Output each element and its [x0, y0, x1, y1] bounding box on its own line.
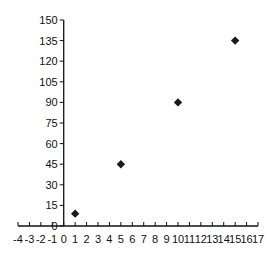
diamond-marker [117, 160, 125, 168]
x-tick-label: -3 [25, 233, 35, 245]
y-tick-label: 135 [39, 35, 57, 47]
x-tick-label: 12 [195, 233, 207, 245]
y-tick-label: 150 [39, 14, 57, 26]
y-tick-label: 30 [45, 179, 57, 191]
y-axis: 0153045607590105120135150 [39, 14, 63, 232]
x-tick-label: 10 [172, 233, 184, 245]
y-tick-label: 105 [39, 76, 57, 88]
x-tick-label: 2 [84, 233, 90, 245]
x-tick-label: 7 [141, 233, 147, 245]
y-tick-label: 120 [39, 55, 57, 67]
x-tick-label: 5 [118, 233, 124, 245]
x-tick-label: -2 [36, 233, 46, 245]
x-tick-label: 4 [106, 233, 112, 245]
x-tick-label: 1 [72, 233, 78, 245]
data-points [71, 36, 239, 217]
scatter-chart: 0153045607590105120135150 -4-3-2-1012345… [0, 0, 278, 260]
x-tick-label: -4 [13, 233, 23, 245]
y-tick-label: 75 [45, 117, 57, 129]
x-tick-label: 14 [218, 233, 230, 245]
x-tick-label: -1 [47, 233, 57, 245]
x-tick-label: 16 [240, 233, 252, 245]
x-tick-label: 13 [206, 233, 218, 245]
y-tick-label: 45 [45, 158, 57, 170]
y-tick-label: 90 [45, 96, 57, 108]
x-tick-label: 15 [229, 233, 241, 245]
diamond-marker [71, 209, 79, 217]
x-axis: -4-3-2-101234567891011121314151617 [13, 222, 264, 245]
x-tick-label: 3 [95, 233, 101, 245]
x-tick-label: 6 [129, 233, 135, 245]
diamond-marker [231, 36, 239, 44]
x-tick-label: 17 [252, 233, 264, 245]
x-tick-label: 9 [164, 233, 170, 245]
x-tick-label: 8 [152, 233, 158, 245]
x-tick-label: 0 [61, 233, 67, 245]
y-tick-label: 15 [45, 199, 57, 211]
y-tick-label: 60 [45, 138, 57, 150]
x-tick-label: 11 [184, 233, 195, 245]
diamond-marker [174, 98, 182, 106]
